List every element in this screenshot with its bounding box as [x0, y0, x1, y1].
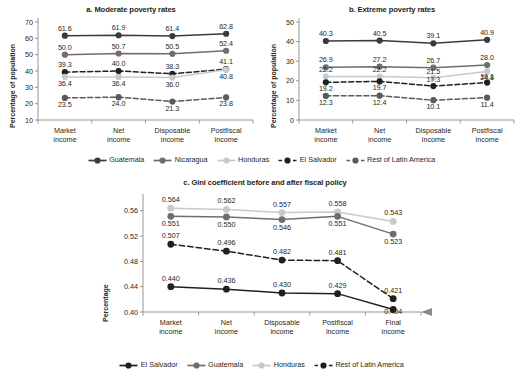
axis-arrow-icon: [421, 308, 432, 316]
legend-label: Guatemala: [208, 361, 243, 368]
x-tick-label: Finalincome: [382, 318, 405, 336]
legend-item[interactable]: Guatemala: [187, 361, 244, 370]
legend-marker-icon: [88, 156, 107, 165]
y-tick-label: 30: [286, 57, 294, 66]
data-label: 0.557: [273, 200, 291, 209]
plot-area-c: 0.400.440.480.520.56MarketincomeNetincom…: [95, 172, 435, 357]
data-point: [167, 283, 174, 290]
legend-marker-icon: [346, 156, 365, 165]
data-point: [334, 257, 341, 264]
legend-item[interactable]: Rest of Latin America: [314, 361, 404, 370]
y-tick-label: 0.40: [124, 308, 138, 317]
data-label: 17.3: [426, 75, 440, 84]
svg-text:Market: Market: [160, 318, 182, 327]
data-point: [279, 290, 286, 297]
data-label: 40.0: [112, 59, 126, 68]
svg-text:Postfiscal: Postfiscal: [322, 318, 353, 327]
data-point: [167, 205, 174, 212]
data-label: 28.0: [480, 53, 494, 62]
data-label: 19.1: [480, 72, 494, 81]
svg-text:income: income: [270, 327, 293, 336]
svg-text:income: income: [314, 135, 337, 144]
legend-label: Honduras: [274, 361, 305, 368]
legend-marker-icon: [153, 156, 172, 165]
data-label: 0.404: [384, 307, 402, 316]
y-tick-label: 30: [25, 83, 33, 92]
y-tick-label: 0.52: [124, 232, 138, 241]
data-label: 40.9: [480, 28, 494, 37]
data-label: 0.496: [217, 238, 235, 247]
svg-text:income: income: [326, 327, 349, 336]
svg-text:Disposable: Disposable: [416, 126, 452, 135]
legend-item[interactable]: El Salvador: [119, 361, 177, 370]
svg-text:income: income: [382, 327, 405, 336]
data-point: [62, 33, 68, 39]
chart-panel-moderate-poverty: a. Moderate poverty rates Percentage of …: [0, 0, 262, 172]
data-point: [116, 50, 122, 56]
y-tick-label: 50: [25, 50, 33, 59]
legend-item[interactable]: Rest of Latin America: [346, 156, 436, 165]
data-label: 19.7: [373, 83, 387, 92]
data-label: 0.436: [217, 276, 235, 285]
y-tick-label: 70: [25, 18, 33, 27]
data-point: [279, 209, 286, 216]
data-label: 12.3: [319, 98, 333, 107]
legend-item[interactable]: El Salvador: [278, 156, 336, 165]
data-point: [279, 257, 286, 264]
data-label: 0.550: [217, 220, 235, 229]
series-line: [326, 40, 487, 44]
data-label: 10.1: [426, 102, 440, 111]
svg-text:income: income: [215, 135, 238, 144]
data-label: 50.5: [165, 42, 179, 51]
svg-text:Net: Net: [113, 126, 124, 135]
svg-text:income: income: [161, 135, 184, 144]
data-label: 0.429: [329, 281, 347, 290]
y-tick-label: 0.48: [124, 257, 138, 266]
svg-text:income: income: [159, 327, 182, 336]
data-point: [390, 218, 397, 225]
y-tick-label: 20: [286, 76, 294, 85]
data-label: 36.4: [58, 79, 72, 88]
data-label: 39.3: [58, 60, 72, 69]
data-label: 0.564: [162, 195, 180, 204]
data-label: 61.9: [112, 23, 126, 32]
data-label: 0.481: [329, 248, 347, 257]
svg-text:income: income: [422, 135, 445, 144]
data-label: 40.8: [219, 72, 233, 81]
svg-text:income: income: [107, 135, 130, 144]
legend-top: GuatemalaNicaraguaHondurasEl SalvadorRes…: [0, 152, 523, 168]
series-line: [326, 71, 487, 77]
y-tick-label: 0.56: [124, 206, 138, 215]
x-tick-label: Disposableincome: [416, 126, 452, 144]
legend-item[interactable]: Honduras: [217, 156, 270, 165]
legend-item[interactable]: Guatemala: [88, 156, 145, 165]
legend-marker-icon: [217, 156, 236, 165]
y-tick-label: 60: [25, 34, 33, 43]
legend-label: Honduras: [238, 156, 269, 163]
data-point: [223, 206, 230, 213]
svg-text:Disposable: Disposable: [264, 318, 300, 327]
data-label: 26.9: [319, 55, 333, 64]
data-label: 0.507: [162, 231, 180, 240]
legend-item[interactable]: Honduras: [252, 361, 305, 370]
data-label: 26.7: [426, 56, 440, 65]
data-label: 0.543: [384, 208, 402, 217]
svg-text:Postfiscal: Postfiscal: [472, 126, 503, 135]
legend-item[interactable]: Nicaragua: [153, 156, 207, 165]
data-point: [390, 295, 397, 302]
data-label: 0.562: [217, 196, 235, 205]
data-point: [223, 286, 230, 293]
data-label: 40.3: [319, 29, 333, 38]
data-label: 21.3: [165, 104, 179, 113]
data-point: [223, 48, 229, 54]
x-tick-label: Netincome: [107, 126, 130, 144]
data-label: 50.0: [58, 43, 72, 52]
legend-label: Guatemala: [109, 156, 144, 163]
data-label: 0.546: [273, 223, 291, 232]
legend-label: Rest of Latin America: [367, 156, 435, 163]
data-label: 23.8: [219, 99, 233, 108]
x-tick-label: Marketincome: [314, 126, 337, 144]
series-line: [65, 34, 226, 36]
svg-text:income: income: [53, 135, 76, 144]
legend-label: Rest of Latin America: [335, 361, 403, 368]
